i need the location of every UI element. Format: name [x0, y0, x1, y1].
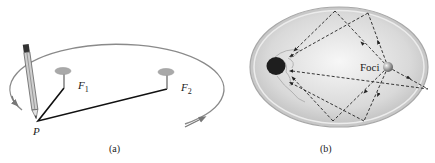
caption-a: (a): [109, 143, 120, 155]
caption-b: (b): [320, 143, 332, 155]
string: [38, 88, 167, 121]
focus2-label: F2: [180, 81, 192, 96]
pin-f1-icon: [55, 68, 71, 89]
foci-label: Foci: [360, 61, 380, 73]
point-p-label: P: [32, 125, 40, 137]
panel-a: P F1 F2 (a): [10, 44, 224, 155]
focus1-label: F1: [77, 79, 89, 94]
pencil-icon: [23, 44, 39, 119]
source-ball: [267, 57, 286, 75]
panel-b: Foci (b): [250, 7, 428, 155]
pin-f2-icon: [158, 69, 174, 90]
ellipse-figure: P F1 F2 (a): [0, 0, 435, 163]
focus-ball: [383, 62, 393, 72]
ellipse-arc: [10, 44, 224, 124]
arc-arrow-left-icon: [12, 96, 16, 104]
